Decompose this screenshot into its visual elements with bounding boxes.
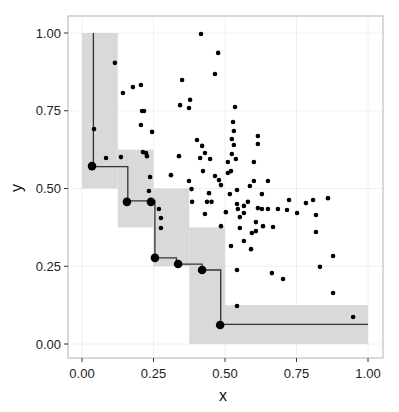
data-point [208,157,213,162]
data-point [235,268,240,273]
data-point [252,160,257,165]
data-point [169,173,174,178]
y-tick-label: 0.25 [36,259,61,274]
data-point [260,207,265,212]
data-point [216,51,221,56]
data-point [246,200,251,205]
data-point [230,152,235,157]
data-point [187,179,192,184]
data-point [145,154,150,159]
x-tick-label: 0.50 [212,366,237,381]
data-point [242,239,247,244]
data-point [266,179,271,184]
data-point [281,277,286,282]
frontier-point [123,198,132,207]
data-point [314,230,319,235]
data-point [326,196,331,201]
data-point [207,191,212,196]
data-point [213,72,218,77]
data-point [256,206,261,211]
data-point [104,156,109,161]
data-point [150,130,155,135]
data-point [230,137,235,142]
shaded-region [118,150,154,228]
data-point [203,212,208,217]
y-axis-title: y [8,184,25,192]
data-point [235,202,240,207]
data-point [287,198,292,203]
data-point [236,207,241,212]
data-point [331,254,336,259]
data-point [233,105,238,110]
x-axis-title: x [219,387,227,404]
x-axis: 0.000.250.500.751.00 [69,358,380,381]
data-point [209,200,214,205]
data-point [189,187,194,192]
data-point [224,210,229,215]
frontier-point [174,260,183,269]
data-point [217,178,222,183]
data-point [119,155,124,160]
data-point [121,91,126,96]
frontier-point [88,162,97,171]
data-point [311,198,316,203]
data-point [226,171,231,176]
y-tick-label: 0.00 [36,337,61,352]
data-point [318,265,323,270]
data-point [187,106,192,111]
data-point [266,207,271,212]
data-point [331,291,336,296]
data-point [213,174,218,179]
data-point [254,220,259,225]
data-point [157,207,162,212]
y-tick-label: 0.75 [36,103,61,118]
data-point [113,61,118,66]
data-point [131,85,136,90]
data-point [314,213,319,218]
data-point [351,315,356,320]
data-point [260,192,265,197]
data-point [159,226,164,231]
data-point [256,134,261,139]
data-point [235,304,240,309]
data-point [248,184,253,189]
x-tick-label: 0.75 [284,366,309,381]
data-point [198,156,203,161]
x-tick-label: 1.00 [355,366,380,381]
data-point [139,83,144,88]
data-point [235,188,240,193]
x-tick-label: 0.25 [141,366,166,381]
data-point [142,109,147,114]
frontier-point [151,254,160,263]
data-point [276,207,281,212]
data-point [148,175,153,180]
data-point [219,224,224,229]
data-point [271,225,276,230]
data-point [270,271,275,276]
data-point [232,143,237,148]
data-point [304,201,309,206]
scatter-chart: 0.000.250.500.751.00 0.000.250.500.751.0… [0,0,399,412]
data-point [249,247,254,252]
y-axis: 0.000.250.500.751.00 [36,26,68,352]
data-point [180,78,185,83]
data-point [250,231,255,236]
frontier-point [216,321,225,330]
data-point [232,129,237,134]
data-point [229,244,234,249]
data-point [234,157,239,162]
data-point [199,32,204,37]
data-point [203,151,208,156]
y-tick-label: 1.00 [36,26,61,41]
data-point [200,144,205,149]
data-point [92,127,97,132]
data-point [242,204,247,209]
data-point [147,189,152,194]
data-point [219,183,224,188]
frontier-point [198,266,207,275]
data-point [139,123,144,128]
data-point [226,160,231,165]
data-point [178,103,183,108]
y-tick-label: 0.50 [36,181,61,196]
data-point [177,154,182,159]
